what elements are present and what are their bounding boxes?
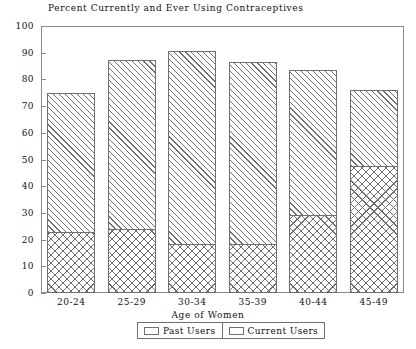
legend-swatch-past-users	[144, 327, 159, 335]
bar-segment-current-users	[229, 62, 277, 245]
y-axis-tick-label: 20	[8, 235, 34, 245]
x-axis-label: Age of Women	[0, 310, 416, 320]
x-axis-tick-label: 45-49	[344, 297, 404, 307]
legend-label-current-users: Current Users	[248, 326, 319, 336]
legend-item-current-users: Current Users	[222, 323, 325, 338]
y-axis-tick-label: 70	[8, 101, 34, 111]
chart-title: Percent Currently and Ever Using Contrac…	[48, 3, 303, 13]
bar-segment-past-users	[108, 229, 156, 293]
bar-segment-current-users	[108, 60, 156, 230]
y-axis-tick-mark	[41, 293, 46, 294]
legend-item-past-users: Past Users	[138, 323, 222, 338]
y-axis-tick-label: 10	[8, 261, 34, 271]
x-axis-tick-label: 30-34	[162, 297, 222, 307]
bars-layer	[41, 26, 404, 293]
bar-segment-current-users	[168, 51, 216, 245]
bar-segment-past-users	[350, 166, 398, 293]
y-axis-tick-label: 30	[8, 208, 34, 218]
y-axis-tick-label: 50	[8, 155, 34, 165]
bar-segment-current-users	[289, 70, 337, 216]
y-axis-tick-label: 60	[8, 128, 34, 138]
x-axis-tick-label: 20-24	[41, 297, 101, 307]
y-axis-tick-label: 90	[8, 48, 34, 58]
bar-chart: Percent Currently and Ever Using Contrac…	[0, 0, 416, 349]
bar-segment-past-users	[289, 215, 337, 293]
y-axis-tick-label: 80	[8, 74, 34, 84]
x-axis-tick-label: 35-39	[223, 297, 283, 307]
x-axis-tick-label: 25-29	[102, 297, 162, 307]
bar-segment-past-users	[47, 232, 95, 293]
chart-legend: Past Users Current Users	[137, 322, 325, 339]
bar-segment-past-users	[229, 244, 277, 293]
bar-segment-current-users	[350, 90, 398, 167]
x-axis-tick-label: 40-44	[283, 297, 343, 307]
y-axis-tick-label: 40	[8, 181, 34, 191]
y-axis-tick-label: 0	[8, 288, 34, 298]
legend-label-past-users: Past Users	[163, 326, 216, 336]
bar-segment-current-users	[47, 93, 95, 233]
y-axis-tick-label: 100	[8, 21, 34, 31]
legend-swatch-current-users	[229, 327, 244, 335]
bar-segment-past-users	[168, 244, 216, 293]
